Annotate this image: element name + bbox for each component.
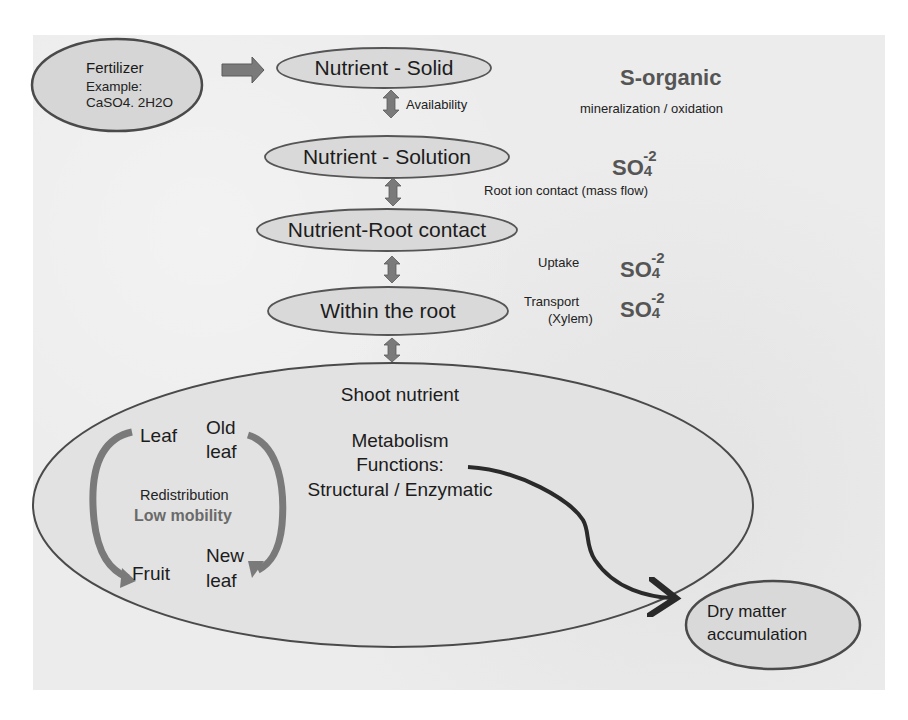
mineralization-label: mineralization / oxidation [580,102,723,115]
sulfate-charge: -2 [651,249,664,266]
redistribution-old-leaf-1: Old [206,418,236,437]
transition-root-ion-contact: Root ion contact (mass flow) [484,184,648,197]
sulfate-uptake-label: SO4-2 [620,250,664,281]
stage-nutrient-solid: Nutrient - Solid [284,57,484,78]
fertilizer-example-formula: CaSO4. 2H2O [86,96,173,110]
shoot-nutrient-ellipse [33,363,753,647]
stage-nutrient-solution: Nutrient - Solution [272,146,502,167]
double-arrow-icon [384,338,400,362]
stage-nutrient-root-contact: Nutrient-Root contact [262,219,512,240]
sulfate-charge: -2 [643,147,656,164]
double-arrow-icon [383,90,399,118]
stage-within-root: Within the root [288,300,488,321]
dry-matter-line-1: Dry matter [707,603,786,620]
dry-matter-line-2: accumulation [707,626,807,643]
fertilizer-title: Fertilizer [86,60,144,75]
transition-transport-xylem: (Xylem) [548,312,593,325]
sulfate-solution-label: SO4-2 [612,148,656,179]
double-arrow-icon [384,256,400,283]
sulfate-subscript: 4 [652,264,660,281]
sulfate-base: SO [612,155,644,180]
redistribution-new-leaf-1: New [206,546,244,565]
sulfate-base: SO [620,297,652,322]
sulfate-base: SO [620,257,652,282]
double-arrow-icon [385,178,401,206]
sulfate-subscript: 4 [652,304,660,321]
redistribution-old-leaf-2: leaf [206,442,237,461]
redistribution-new-leaf-2: leaf [206,571,237,590]
sulfate-transport-label: SO4-2 [620,290,664,321]
s-organic-label: S-organic [620,67,721,89]
right-arrow-icon [222,57,264,83]
redistribution-leaf: Leaf [140,426,177,445]
shoot-title: Shoot nutrient [300,385,500,404]
fertilizer-example-label: Example: [86,80,142,94]
redistribution-label: Redistribution [140,488,229,503]
transition-transport: Transport [524,295,579,308]
sulfate-charge: -2 [651,289,664,306]
metabolism-line-1: Metabolism [280,431,520,450]
transition-availability: Availability [406,98,467,111]
sulfate-subscript: 4 [644,162,652,179]
low-mobility-label: Low mobility [134,508,232,524]
transition-uptake: Uptake [538,256,579,269]
metabolism-line-3: Structural / Enzymatic [280,480,520,499]
redistribution-fruit: Fruit [132,564,170,583]
metabolism-line-2: Functions: [280,455,520,474]
